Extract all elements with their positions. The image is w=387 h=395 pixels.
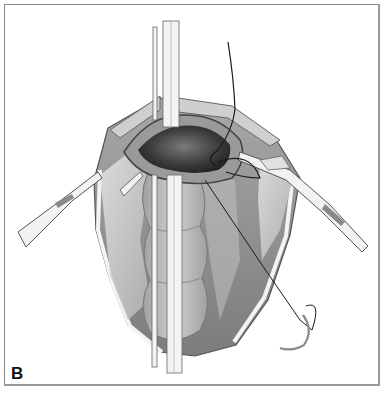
surgical-illustration (0, 0, 387, 395)
panel-label: B (11, 364, 23, 384)
drain-tubes (152, 21, 182, 373)
